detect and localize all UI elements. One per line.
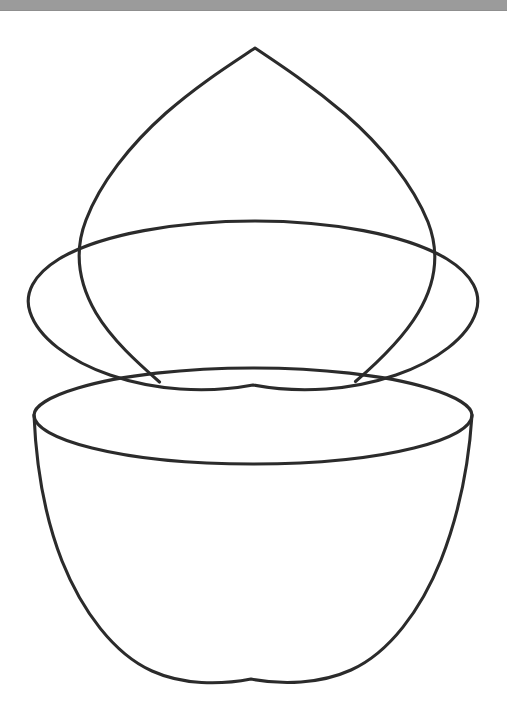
window-titlebar: [0, 0, 507, 11]
upper-dome-outline: [79, 48, 435, 382]
upper-ellipse-cut-face: [28, 221, 478, 390]
split-egg-figure: [0, 11, 507, 717]
app-window: Black outline line drawing of an egg-sha…: [0, 0, 507, 717]
lower-ellipse-cut-face: [34, 368, 472, 464]
drawing-canvas: [0, 11, 507, 717]
lower-bowl-outline: [34, 415, 472, 683]
